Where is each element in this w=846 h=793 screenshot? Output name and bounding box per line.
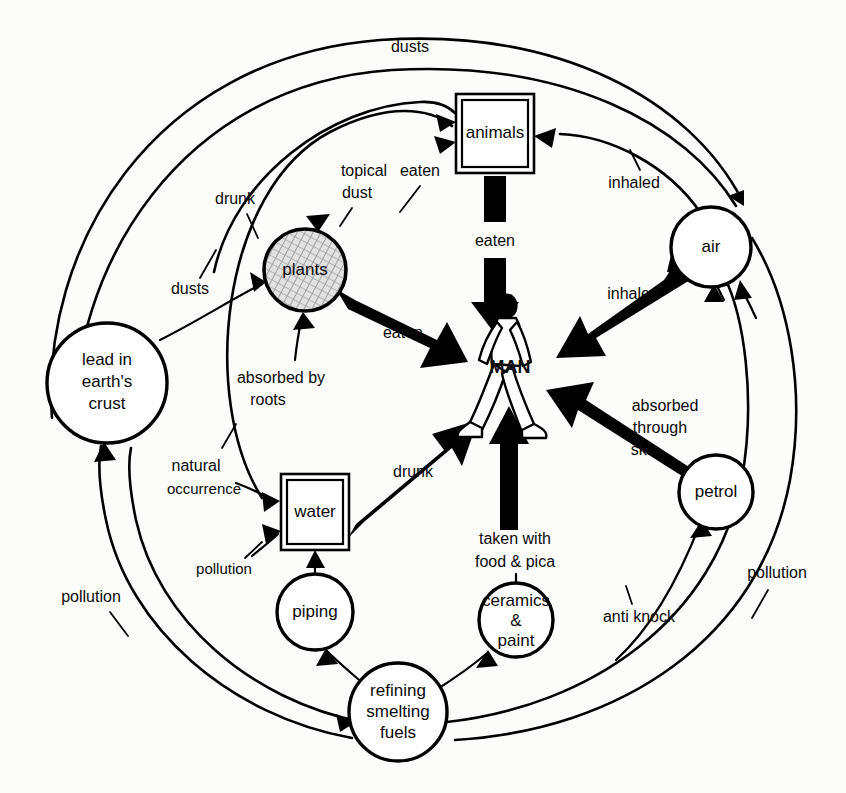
diagram-canvas: lead in earth's crust plants animals air <box>0 0 846 793</box>
edge-label-dusts-top: dusts <box>391 38 429 55</box>
line-refining-ceramics <box>436 654 486 690</box>
node-water[interactable]: water <box>281 474 349 550</box>
edge-label-pollution-water: pollution <box>196 560 252 577</box>
edge-label-pollution-right: pollution <box>747 564 807 581</box>
node-petrol-label: petrol <box>695 482 738 501</box>
node-refining-smelting-fuels[interactable]: refining smelting fuels <box>349 663 447 761</box>
arrowhead-water-natural <box>262 492 280 512</box>
node-petrol[interactable]: petrol <box>679 455 753 529</box>
arrow-air-man <box>556 262 690 358</box>
edge-label-pollution-left: pollution <box>61 588 121 605</box>
arrowhead-animals-inhaled <box>534 128 556 148</box>
node-animals-label: animals <box>466 123 525 142</box>
node-man-label: MAN <box>490 357 531 377</box>
edge-label-inhaled-animals: inhaled <box>608 174 660 191</box>
node-ceramics-label-3: paint <box>498 631 535 650</box>
edge-label-dusts-left: dusts <box>171 280 209 297</box>
lead-exposure-diagram: lead in earth's crust plants animals air <box>0 0 846 793</box>
leader-pollution-left <box>110 612 128 636</box>
edge-label-dust: dust <box>342 184 373 201</box>
edge-label-eaten-animals-man: eaten <box>475 232 515 249</box>
leader-anti-knock <box>626 586 632 604</box>
leader-pollution-right <box>752 590 768 618</box>
node-plants[interactable]: plants <box>264 229 346 311</box>
arrowhead-animals-a <box>436 114 456 132</box>
node-air-label: air <box>702 237 721 256</box>
edge-label-food-pica: food & pica <box>475 553 555 570</box>
edge-label-anti-knock: anti knock <box>603 608 676 625</box>
edge-label-eaten-plants-man: eaten <box>383 324 423 341</box>
edge-label-taken-with: taken with <box>479 530 551 547</box>
node-water-label: water <box>293 502 336 521</box>
node-ceramics-paint[interactable]: ceramics & paint <box>479 583 553 657</box>
edge-label-drunk-animals: drunk <box>215 190 256 207</box>
arrowhead-lead-crust <box>94 442 116 462</box>
node-lead-crust-label-3: crust <box>89 394 126 413</box>
edge-label-through: through <box>633 419 687 436</box>
arrowhead-animals-b <box>434 136 456 154</box>
edge-label-absorbed-by: absorbed by <box>237 369 325 386</box>
node-piping[interactable]: piping <box>277 574 353 650</box>
edge-label-topical: topical <box>341 162 387 179</box>
edge-label-absorbed: absorbed <box>632 397 699 414</box>
edge-label-roots: roots <box>250 391 286 408</box>
node-man[interactable]: MAN <box>458 294 547 438</box>
leader-natural <box>222 424 236 448</box>
arrowhead-absorbed-roots <box>293 312 315 330</box>
node-refining-label-1: refining <box>370 681 426 700</box>
node-animals[interactable]: animals <box>456 94 534 173</box>
node-lead-crust[interactable]: lead in earth's crust <box>47 323 167 443</box>
node-ceramics-label-1: ceramics <box>482 591 550 610</box>
node-refining-label-2: smelting <box>366 702 429 721</box>
edge-label-natural: natural <box>172 457 221 474</box>
arrowhead-water-piping <box>306 550 325 568</box>
node-lead-crust-label-2: earth's <box>82 372 133 391</box>
edge-label-eaten-plants-animals: eaten <box>400 162 440 179</box>
node-ceramics-label-2: & <box>510 611 522 630</box>
leader-inhaled-animals <box>630 150 640 170</box>
edge-label-occurrence: occurrence <box>167 480 241 497</box>
edge-label-drunk-water-man: drunk <box>393 463 434 480</box>
leader-dusts-left <box>200 250 216 278</box>
node-lead-crust-label-1: lead in <box>82 350 132 369</box>
arrowhead-air-br <box>734 280 752 300</box>
edge-label-skin: skin <box>631 441 659 458</box>
arrow-ceramics-man-shaft <box>500 438 518 530</box>
node-piping-label: piping <box>292 602 337 621</box>
leader-eaten-top <box>400 186 420 212</box>
arrow-animals-man-shaft-upper <box>484 176 506 222</box>
arc-inhaled-animals <box>560 134 700 212</box>
node-air[interactable]: air <box>671 207 751 287</box>
node-refining-label-3: fuels <box>380 723 416 742</box>
edge-label-inhaled-man: inhaled <box>607 285 659 302</box>
node-plants-label: plants <box>282 260 327 279</box>
leader-topical <box>340 208 352 226</box>
